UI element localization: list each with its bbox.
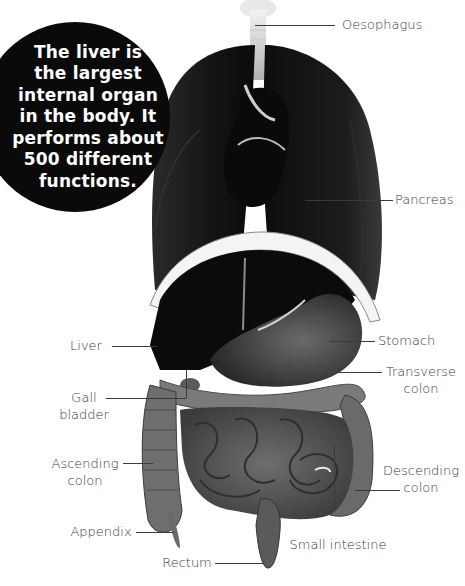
liver-fact-callout: The liver is the largest internal organ …	[0, 22, 170, 212]
gall-bladder-leader-line-vertical	[186, 370, 187, 398]
label-liver: Liver	[62, 337, 110, 354]
label-small-intestine: Small intestine	[278, 536, 398, 553]
stomach-leader-line	[330, 341, 375, 342]
transverse-colon-leader-line	[338, 372, 382, 373]
label-pancreas: Pancreas	[395, 191, 453, 208]
label-appendix: Appendix	[66, 523, 136, 540]
ascending-colon-leader-line	[123, 463, 153, 464]
liver-leader-line	[112, 346, 157, 347]
gall-bladder-leader-line	[106, 398, 186, 399]
liver-fact-text: The liver is the largest internal organ …	[0, 42, 168, 193]
label-rectum: Rectum	[160, 554, 214, 571]
label-stomach: Stomach	[378, 332, 435, 349]
digestive-system-diagram: The liver is the largest internal organ …	[0, 0, 465, 586]
label-gall-bladder: Gall bladder	[58, 389, 110, 423]
label-oesophagus: Oesophagus	[342, 16, 422, 33]
appendix-leader-line	[136, 532, 174, 533]
label-transverse-colon: Transverse colon	[380, 363, 462, 397]
label-ascending-colon: Ascending colon	[46, 455, 124, 489]
rectum-leader-line	[215, 563, 263, 564]
oesophagus-leader-line	[255, 25, 335, 26]
label-descending-colon: Descending colon	[380, 462, 462, 496]
pancreas-leader-line	[305, 200, 393, 201]
small-intestine-leader-line	[334, 445, 335, 505]
rectum-icon	[256, 499, 280, 568]
ascending-colon-icon	[142, 385, 182, 532]
